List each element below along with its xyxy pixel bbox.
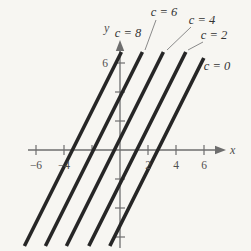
family-line-c4 bbox=[66, 52, 163, 246]
y-axis-label: y bbox=[103, 21, 110, 35]
leader-line-c2 bbox=[188, 42, 203, 50]
x-tick-label-neg4: −4 bbox=[58, 159, 70, 171]
x-tick-label-6: 6 bbox=[201, 159, 207, 171]
line-label-c6: c = 6 bbox=[151, 5, 178, 19]
x-tick-label-neg6: −6 bbox=[30, 159, 42, 171]
x-axis-arrow-icon bbox=[215, 146, 226, 154]
plot-svg: x y −6 −4 2 4 6 6 c = 8 c = 6 c = 4 c = … bbox=[0, 0, 251, 251]
x-tick-label-4: 4 bbox=[173, 159, 179, 171]
line-label-c8: c = 8 bbox=[115, 26, 142, 40]
line-label-c4: c = 4 bbox=[189, 13, 215, 27]
y-tick-label-6: 6 bbox=[102, 57, 108, 69]
figure-family-of-lines: x y −6 −4 2 4 6 6 c = 8 c = 6 c = 4 c = … bbox=[0, 0, 251, 251]
leader-line-c6 bbox=[145, 20, 156, 50]
family-line-c8 bbox=[24, 52, 121, 246]
y-axis-arrow-icon bbox=[116, 40, 124, 51]
x-axis-label: x bbox=[229, 143, 236, 157]
line-label-c2: c = 2 bbox=[201, 28, 227, 42]
family-line-c6 bbox=[45, 52, 142, 246]
leader-line-c4 bbox=[167, 27, 191, 50]
family-line-c2 bbox=[89, 52, 186, 246]
x-tick-label-2: 2 bbox=[145, 159, 151, 171]
line-label-c0: c = 0 bbox=[204, 59, 231, 73]
family-lines-layer bbox=[24, 52, 203, 246]
